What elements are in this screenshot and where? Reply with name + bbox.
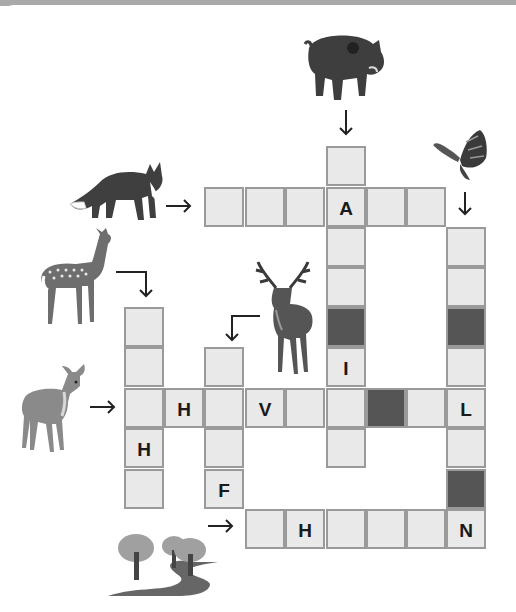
butterfly-icon	[430, 126, 490, 184]
fawn-icon	[16, 362, 92, 456]
arrow-right-fawn-icon	[90, 399, 116, 415]
crossword-cell[interactable]	[124, 388, 164, 428]
crossword-cell[interactable]	[406, 388, 446, 428]
arrow-down-butterfly-icon	[457, 192, 473, 216]
crossword-cell[interactable]	[446, 347, 486, 387]
crossword-cell[interactable]: I	[326, 347, 366, 387]
crossword-cell[interactable]: H	[285, 509, 325, 549]
crossword-cell[interactable]	[366, 187, 406, 227]
crossword-cell[interactable]	[326, 146, 366, 186]
crossword-cell[interactable]: A	[326, 187, 366, 227]
crossword-cell[interactable]	[204, 187, 244, 227]
spotted-doe-icon	[36, 226, 120, 330]
crossword-cell[interactable]	[204, 388, 244, 428]
crossword-cell[interactable]	[204, 428, 244, 468]
crossword-cell[interactable]: H	[124, 428, 164, 468]
arrow-right-fox-icon	[166, 198, 192, 214]
crossword-cell[interactable]	[326, 509, 366, 549]
crossword-cell[interactable]	[406, 187, 446, 227]
crossword-cell[interactable]	[446, 227, 486, 267]
blocked-cell	[366, 388, 406, 428]
crossword-cell[interactable]	[245, 187, 285, 227]
crossword-cell[interactable]: V	[245, 388, 285, 428]
crossword-cell[interactable]	[124, 469, 164, 509]
crossword-cell[interactable]	[124, 307, 164, 347]
crossword-cell[interactable]	[326, 428, 366, 468]
fox-icon	[66, 152, 170, 224]
arrow-bent-stag-icon	[218, 314, 262, 344]
crossword-cell[interactable]	[204, 347, 244, 387]
crossword-cell[interactable]	[285, 388, 325, 428]
trees-and-path-icon	[108, 526, 222, 596]
crossword-cell[interactable]: N	[446, 509, 486, 549]
blocked-cell	[446, 307, 486, 347]
crossword-cell[interactable]	[285, 187, 325, 227]
crossword-cell[interactable]	[406, 509, 446, 549]
blocked-cell	[326, 307, 366, 347]
crossword-cell[interactable]	[446, 428, 486, 468]
crossword-cell[interactable]	[446, 267, 486, 307]
arrow-right-forest-icon	[208, 518, 234, 534]
crossword-cell[interactable]	[124, 347, 164, 387]
crossword-cell[interactable]: H	[164, 388, 204, 428]
crossword-cell[interactable]	[366, 509, 406, 549]
crossword-cell[interactable]	[326, 388, 366, 428]
crossword-cell[interactable]: L	[446, 388, 486, 428]
crossword-cell[interactable]	[326, 227, 366, 267]
arrow-bent-doe-icon	[116, 270, 156, 300]
crossword-cell[interactable]	[326, 267, 366, 307]
blocked-cell	[446, 469, 486, 509]
arrow-down-boar-icon	[338, 110, 354, 136]
crossword-cell[interactable]	[245, 509, 285, 549]
crossword-cell[interactable]: F	[204, 469, 244, 509]
wild-boar-icon	[303, 30, 389, 102]
